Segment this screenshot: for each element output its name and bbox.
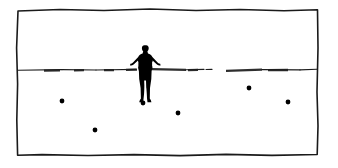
dot-5	[247, 86, 252, 91]
drawing-root	[0, 0, 338, 168]
horizon-segment-12	[226, 70, 262, 71]
paper-background	[0, 0, 338, 168]
dot-6	[286, 100, 291, 105]
dot-2	[93, 128, 98, 133]
dot-4	[176, 111, 181, 116]
illustration-canvas	[0, 0, 338, 168]
dot-1	[60, 99, 65, 104]
horizon-segment-15	[300, 69, 317, 70]
dot-3	[141, 101, 146, 106]
horizon-segment-8	[152, 69, 186, 70]
